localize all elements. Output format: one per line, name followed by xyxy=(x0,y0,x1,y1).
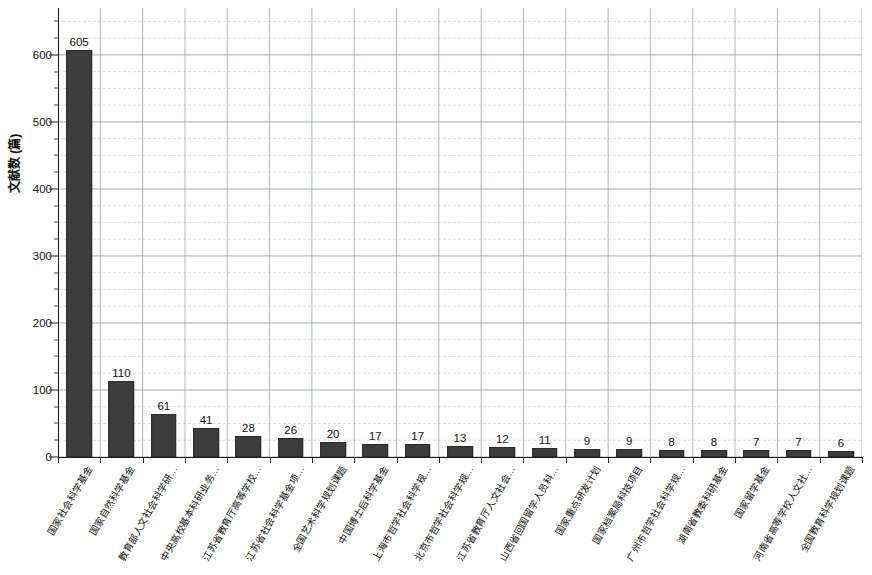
bar-slot: 7 xyxy=(777,8,819,457)
x-axis-tick xyxy=(862,457,863,463)
bar-slot: 17 xyxy=(354,8,396,457)
bar-slot: 7 xyxy=(735,8,777,457)
bar-value-label: 7 xyxy=(795,436,801,448)
y-axis-tick-labels: 0100200300400500600 xyxy=(16,8,52,457)
bar[interactable] xyxy=(66,50,92,457)
x-axis-tick-labels: 国家社会科学基金国家自然科学基金教育部人文社会科学研…中央高校基本科研业务…江苏… xyxy=(58,463,862,575)
bar[interactable] xyxy=(659,450,685,457)
bar-slot: 61 xyxy=(143,8,185,457)
bar-value-label: 41 xyxy=(200,414,213,426)
y-axis-tick-label: 600 xyxy=(18,49,52,61)
y-axis-tick-label: 400 xyxy=(18,183,52,195)
bar-slot: 8 xyxy=(650,8,692,457)
bar-value-label: 9 xyxy=(626,435,632,447)
bar-slot: 26 xyxy=(270,8,312,457)
plot-area: 605110614128262017171312119988776 xyxy=(58,8,862,457)
bar-slot: 11 xyxy=(523,8,565,457)
bar-slot: 110 xyxy=(100,8,142,457)
bar-value-label: 9 xyxy=(584,435,590,447)
bar-value-label: 110 xyxy=(112,367,130,379)
bar-value-label: 605 xyxy=(70,36,89,48)
y-axis-tick-major xyxy=(49,322,58,323)
bar-value-label: 17 xyxy=(411,430,424,442)
y-axis-tick-major xyxy=(49,389,58,390)
bar[interactable] xyxy=(109,381,135,457)
bar-slot: 9 xyxy=(566,8,608,457)
bar[interactable] xyxy=(574,449,600,457)
bar[interactable] xyxy=(320,442,346,457)
bars-layer: 605110614128262017171312119988776 xyxy=(58,8,862,457)
y-axis-tick-major xyxy=(49,54,58,55)
y-axis-tick-label: 100 xyxy=(18,384,52,396)
bar-slot: 12 xyxy=(481,8,523,457)
y-axis-tick-major xyxy=(49,457,58,458)
bar-value-label: 8 xyxy=(668,436,674,448)
bar-value-label: 11 xyxy=(539,434,551,446)
bar-slot: 8 xyxy=(693,8,735,457)
bar[interactable] xyxy=(236,436,262,457)
y-axis-tick-label: 500 xyxy=(18,116,52,128)
bar-value-label: 20 xyxy=(327,428,340,440)
bar-slot: 28 xyxy=(227,8,269,457)
bar[interactable] xyxy=(151,414,177,457)
bar-value-label: 6 xyxy=(838,437,844,449)
y-axis-tick-label: 200 xyxy=(18,317,52,329)
bar-slot: 20 xyxy=(312,8,354,457)
bar-value-label: 7 xyxy=(753,436,759,448)
bar-slot: 605 xyxy=(58,8,100,457)
y-axis-tick-major xyxy=(49,121,58,122)
bar-value-label: 13 xyxy=(454,432,467,444)
bar[interactable] xyxy=(193,428,219,457)
bar-value-label: 28 xyxy=(242,422,255,434)
bar-value-label: 17 xyxy=(369,430,382,442)
bar-value-label: 61 xyxy=(157,400,170,412)
bar[interactable] xyxy=(447,446,473,457)
bar[interactable] xyxy=(616,449,642,457)
bar[interactable] xyxy=(278,438,304,457)
bar[interactable] xyxy=(532,448,558,457)
bar-slot: 6 xyxy=(820,8,862,457)
bar[interactable] xyxy=(743,450,769,457)
bar[interactable] xyxy=(701,450,727,457)
y-axis-line xyxy=(58,8,59,458)
bar-chart: 文献数 (篇) 0100200300400500600 605110614128… xyxy=(0,0,872,575)
bar-value-label: 12 xyxy=(496,433,509,445)
y-axis-tick-major xyxy=(49,255,58,256)
bar-slot: 13 xyxy=(439,8,481,457)
x-axis-tick-label: 国家留学基金 xyxy=(731,463,773,521)
y-axis-tick-label: 300 xyxy=(18,250,52,262)
bar-slot: 9 xyxy=(608,8,650,457)
bar-value-label: 26 xyxy=(284,424,297,436)
bar[interactable] xyxy=(489,447,515,457)
y-axis-tick-major xyxy=(49,188,58,189)
bar[interactable] xyxy=(363,444,389,457)
bar-value-label: 8 xyxy=(711,436,717,448)
y-axis-tick-label: 0 xyxy=(18,451,52,463)
y-axis-tick-marks xyxy=(48,8,58,457)
bar[interactable] xyxy=(405,444,431,457)
bar-slot: 17 xyxy=(397,8,439,457)
bar[interactable] xyxy=(786,450,812,457)
bar-slot: 41 xyxy=(185,8,227,457)
